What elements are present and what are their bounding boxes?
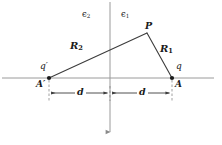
label-charge-q: q <box>176 62 182 71</box>
label-r1: R1 <box>160 44 173 55</box>
segment-r1 <box>147 33 172 78</box>
diagram-canvas <box>0 0 222 145</box>
label-r2: R2 <box>70 41 83 52</box>
label-distance-d-left: d <box>75 87 86 97</box>
label-epsilon-1: ϵ1 <box>121 10 129 20</box>
label-charge-q-prime: q′ <box>40 62 48 71</box>
node-marker-right <box>170 76 174 80</box>
node-marker-left <box>47 76 51 80</box>
label-point-p: P <box>145 21 152 31</box>
label-node-a: A <box>175 80 182 89</box>
label-distance-d-right: d <box>137 87 148 97</box>
label-node-a-prime: A′ <box>36 80 45 89</box>
segment-r2 <box>49 33 147 78</box>
figure-container: ϵ2 ϵ1 P R1 R2 q′ A′ q A d d <box>0 0 222 145</box>
label-epsilon-2: ϵ2 <box>82 10 90 20</box>
